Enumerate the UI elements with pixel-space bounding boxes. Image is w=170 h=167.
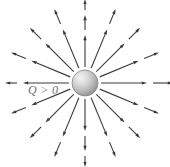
field-line-segment (144, 54, 155, 58)
electric-field-diagram: Q > 0 (0, 0, 170, 167)
field-line-segment (36, 63, 71, 77)
field-line-segment (33, 127, 41, 135)
field-arrow-head (54, 9, 57, 14)
field-line-segment (91, 34, 105, 69)
field-arrow-head (83, 35, 86, 40)
field-line-segment (15, 54, 26, 58)
field-line-segment (144, 107, 155, 111)
field-arrow-head (31, 102, 36, 105)
point-charge-sphere (72, 70, 98, 96)
field-arrow-head (104, 131, 107, 136)
field-arrow-head (112, 9, 115, 14)
field-line-segment (129, 31, 137, 39)
charge-label: Q > 0 (28, 83, 58, 98)
field-arrow-head (63, 131, 66, 136)
field-lines-svg (0, 0, 170, 167)
field-arrow-head (83, 15, 86, 20)
field-line-segment (33, 31, 41, 39)
field-arrow-head (5, 81, 10, 84)
field-arrow-head (153, 52, 158, 55)
field-line-segment (49, 94, 74, 119)
field-arrow-head (142, 81, 147, 84)
field-line-segment (100, 89, 135, 103)
field-arrow-head (112, 151, 115, 156)
field-arrow-head (11, 110, 16, 113)
field-line-segment (100, 63, 135, 77)
field-arrow-head (83, 0, 86, 4)
field-arrow-head (83, 146, 86, 151)
field-arrow-head (133, 102, 138, 105)
field-line-segment (65, 34, 79, 69)
field-arrow-head (11, 52, 16, 55)
field-line-segment (65, 98, 79, 133)
field-line-segment (49, 47, 74, 72)
field-arrow-head (83, 162, 86, 167)
field-line-segment (109, 142, 113, 153)
field-arrow-head (153, 110, 158, 113)
field-line-segment (129, 127, 137, 135)
field-arrow-head (63, 29, 66, 34)
field-arrow-head (168, 81, 170, 84)
field-line-segment (56, 142, 60, 153)
field-arrow-head (31, 61, 36, 64)
field-line-segment (15, 107, 26, 111)
field-line-segment (91, 98, 105, 133)
field-line-segment (96, 47, 121, 72)
field-line-segment (56, 13, 60, 24)
field-arrow-head (104, 29, 107, 34)
field-arrow-head (133, 61, 138, 64)
field-arrow-head (83, 126, 86, 131)
field-arrow-head (54, 151, 57, 156)
field-line-segment (109, 13, 113, 24)
field-line-segment (96, 94, 121, 119)
